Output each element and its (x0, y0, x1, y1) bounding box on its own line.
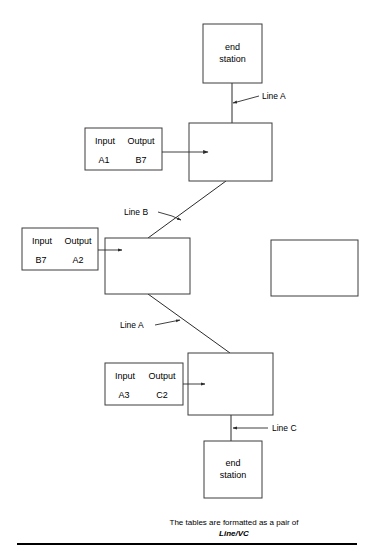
table-a3-c2-value-input: A3 (118, 390, 129, 400)
table-a1-b7-header-input: Input (95, 136, 116, 146)
callout-line-c: Line C (233, 423, 297, 433)
table-b7-a2-box (22, 228, 98, 270)
table-a1-b7-box (85, 128, 162, 170)
callout-line-c-text: Line C (272, 423, 297, 433)
end-station-top-label-line2: station (219, 54, 246, 64)
end-station-bottom-label-line2: station (220, 470, 247, 480)
table-a3-c2-box (105, 363, 183, 405)
node-end-station-top[interactable]: end station (203, 24, 262, 83)
caption-line2: Line/VC (219, 529, 249, 538)
table-b7-a2-header-output: Output (64, 236, 92, 246)
callout-line-a-top-text: Line A (262, 91, 286, 101)
table-a1-b7-header-output: Output (127, 136, 155, 146)
router-right-empty-box (271, 240, 358, 296)
network-diagram: end station end station Input Output A1 (0, 0, 374, 554)
caption-line1: The tables are formatted as a pair of (170, 518, 300, 527)
callout-line-a-lower-text: Line A (120, 320, 144, 330)
callout-line-b: Line B (124, 207, 181, 220)
end-station-top-label-line1: end (225, 42, 240, 52)
node-router-middle[interactable] (105, 238, 190, 294)
end-station-bottom-label-line1: end (225, 458, 240, 468)
table-a3-c2-header-input: Input (115, 371, 136, 381)
table-a3-c2-header-output: Output (148, 371, 176, 381)
table-b7-a2-header-input: Input (32, 236, 53, 246)
table-a1-b7-value-input: A1 (98, 155, 109, 165)
callout-line-a-top-leader (233, 96, 259, 103)
table-a3-c2-value-output: C2 (156, 390, 168, 400)
link-router-top-to-router-middle (148, 181, 226, 238)
callout-line-b-text: Line B (124, 207, 148, 217)
callout-line-a-lower: Line A (120, 320, 180, 330)
diagram-canvas: end station end station Input Output A1 (0, 0, 374, 554)
table-a1-b7-value-output: B7 (135, 155, 146, 165)
node-router-right-empty[interactable] (271, 240, 358, 296)
caption: The tables are formatted as a pair of Li… (170, 518, 300, 538)
table-b7-a2-value-input: B7 (35, 255, 46, 265)
callout-line-a-top: Line A (233, 91, 286, 103)
table-b7-a2-value-output: A2 (72, 255, 83, 265)
callout-line-a-lower-leader (155, 320, 180, 325)
router-middle-box (105, 238, 190, 294)
node-end-station-bottom[interactable]: end station (204, 441, 262, 498)
